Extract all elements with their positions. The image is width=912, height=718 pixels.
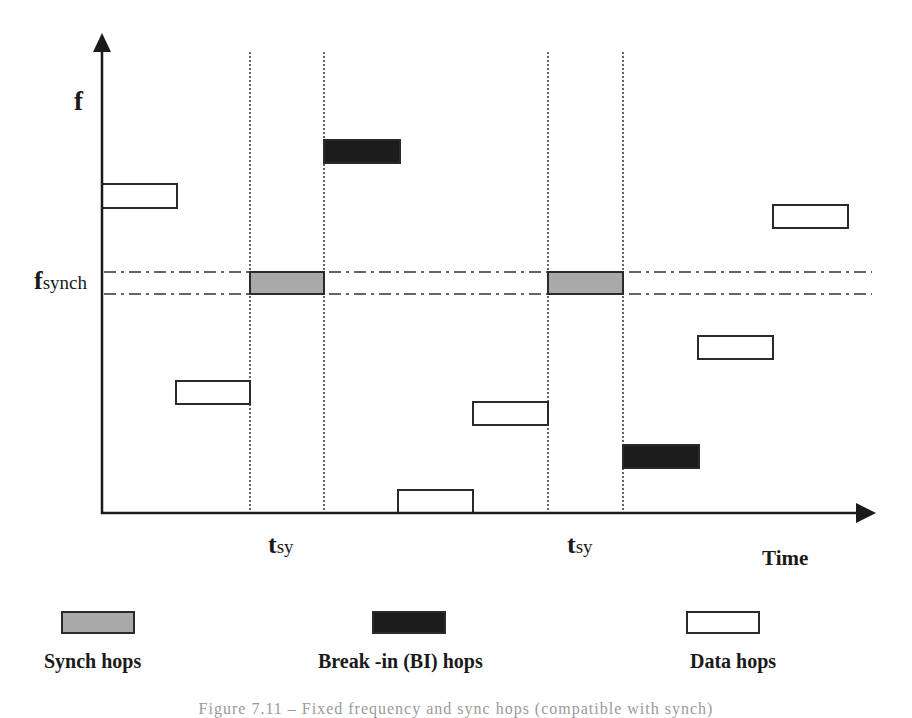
tsy-label-2-sub: sy — [576, 536, 593, 557]
tsy-label-2-main: t — [567, 530, 576, 559]
fsynch-label: fsynch — [34, 266, 87, 296]
hop-data — [102, 184, 177, 208]
legend-label-break-in: Break -in (BI) hops — [318, 650, 483, 673]
hops-layer — [102, 140, 848, 513]
hop-data — [773, 205, 848, 228]
hop-synch — [548, 272, 623, 294]
tsy-label-2: tsy — [567, 530, 593, 560]
fsynch-band-lines — [104, 272, 872, 294]
legend-label-data: Data hops — [690, 650, 776, 673]
tsy-label-1: tsy — [268, 530, 294, 560]
fsynch-label-main: f — [34, 266, 43, 295]
y-axis-arrow-icon — [93, 33, 111, 52]
hop-data — [698, 336, 773, 359]
legend-swatch-break-in — [372, 611, 446, 634]
tsy-label-1-sub: sy — [277, 536, 294, 557]
hop-data — [176, 381, 250, 404]
hop-data — [398, 490, 473, 513]
hop-break-in — [324, 140, 400, 163]
axes — [93, 33, 876, 523]
y-axis-label: f — [74, 86, 83, 117]
figure-caption: Figure 7.11 – Fixed frequency and sync h… — [0, 700, 912, 718]
legend-label-synch: Synch hops — [44, 650, 141, 673]
hop-data — [473, 402, 548, 425]
legend-swatch-data — [686, 611, 760, 634]
x-axis-label: Time — [762, 546, 808, 571]
legend-swatch-synch — [61, 611, 135, 634]
hop-break-in — [623, 445, 699, 468]
hop-synch — [250, 272, 324, 294]
x-axis-arrow-icon — [856, 503, 876, 523]
tsy-label-1-main: t — [268, 530, 277, 559]
fsynch-label-sub: synch — [43, 272, 87, 293]
